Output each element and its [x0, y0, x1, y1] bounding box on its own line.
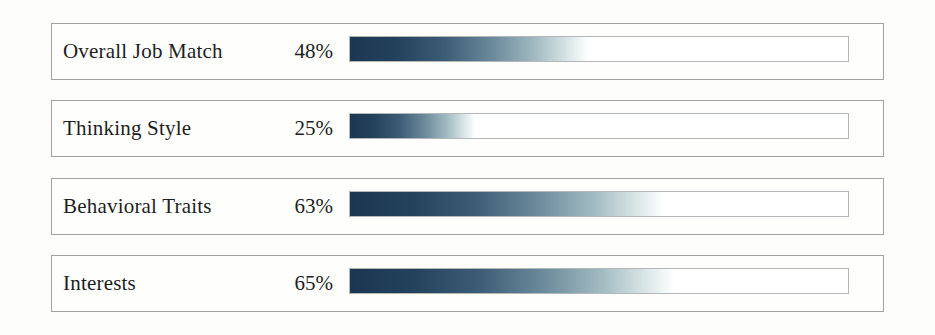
job-match-report: Overall Job Match 48% Thinking Style 25%…	[0, 0, 935, 335]
bar-track	[349, 113, 849, 139]
match-row-behavioral-traits: Behavioral Traits 63%	[51, 178, 884, 235]
match-row-thinking-style: Thinking Style 25%	[51, 100, 884, 157]
bar-track	[349, 191, 849, 217]
category-label: Interests	[63, 256, 136, 311]
bar-fill	[350, 192, 664, 216]
match-row-overall-job-match: Overall Job Match 48%	[51, 23, 884, 80]
category-label: Overall Job Match	[63, 24, 223, 79]
bar-track	[349, 36, 849, 62]
match-row-interests: Interests 65%	[51, 255, 884, 312]
percent-label: 48%	[212, 24, 333, 79]
bar-fill	[350, 37, 589, 61]
bar-fill	[350, 269, 674, 293]
bar-track	[349, 268, 849, 294]
percent-label: 65%	[212, 256, 333, 311]
percent-label: 25%	[212, 101, 333, 156]
percent-label: 63%	[212, 179, 333, 234]
category-label: Thinking Style	[63, 101, 191, 156]
category-label: Behavioral Traits	[63, 179, 212, 234]
bar-fill	[350, 114, 475, 138]
